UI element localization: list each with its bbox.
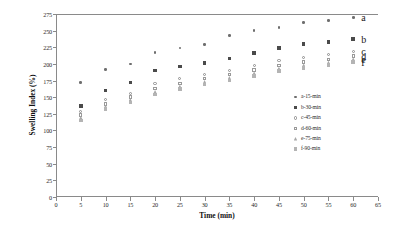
y-axis-tick-mark — [53, 97, 57, 98]
data-point-b — [300, 40, 308, 48]
data-point-f — [324, 61, 332, 69]
x-axis-tick-label: 25 — [177, 201, 183, 208]
data-point-b — [250, 49, 258, 57]
series-end-label-b: b — [361, 34, 366, 45]
legend-item-e[interactable]: e-75-min — [292, 134, 321, 144]
legend-marker-icon-c — [292, 114, 299, 121]
x-axis-tick-mark — [180, 197, 181, 201]
x-axis-tick-mark — [106, 197, 107, 201]
y-axis-tick-mark — [53, 14, 57, 15]
data-point-f — [225, 77, 233, 85]
data-point-f — [102, 105, 110, 113]
data-point-a — [275, 23, 283, 31]
x-axis-tick-label: 5 — [79, 201, 82, 208]
y-axis-tick-mark — [53, 31, 57, 32]
data-point-b — [201, 59, 209, 67]
y-axis-tick-mark — [53, 81, 57, 82]
series-end-label-f: f — [361, 56, 364, 67]
y-axis-tick-mark — [53, 64, 57, 65]
data-point-b — [324, 38, 332, 46]
x-axis-tick-mark — [353, 197, 354, 201]
data-point-f — [201, 81, 209, 89]
x-axis-tick-label: 50 — [301, 201, 307, 208]
y-axis-title: Swelling Index (%) — [28, 75, 37, 136]
data-point-b — [349, 35, 357, 43]
legend-label: e-75-min — [301, 136, 321, 142]
x-axis-tick-mark — [279, 197, 280, 201]
data-point-f — [151, 91, 159, 99]
data-point-f — [300, 64, 308, 72]
x-axis-tick-label: 20 — [152, 201, 158, 208]
x-axis-tick-label: 40 — [251, 201, 257, 208]
data-point-a — [324, 17, 332, 25]
y-axis-tick-mark — [53, 180, 57, 181]
data-point-a — [77, 79, 85, 87]
legend-item-f[interactable]: f-90-min — [292, 144, 321, 154]
data-point-f — [126, 99, 134, 107]
data-point-a — [225, 31, 233, 39]
x-axis-tick-mark — [254, 197, 255, 201]
x-axis-tick-mark — [229, 197, 230, 201]
x-axis-tick-mark — [205, 197, 206, 201]
data-point-b — [176, 63, 184, 71]
data-point-a — [126, 60, 134, 68]
legend-marker-icon-d — [292, 125, 299, 132]
x-axis-tick-label: 0 — [55, 201, 58, 208]
data-point-f — [349, 58, 357, 66]
data-point-a — [349, 13, 357, 21]
x-axis-tick-label: 30 — [202, 201, 208, 208]
x-axis-tick-mark — [304, 197, 305, 201]
legend-item-b[interactable]: b-30-min — [292, 102, 321, 112]
data-point-f — [77, 116, 85, 124]
y-axis-tick-mark — [53, 47, 57, 48]
y-axis-tick-mark — [53, 114, 57, 115]
data-point-a — [250, 27, 258, 35]
data-point-a — [201, 41, 209, 49]
data-point-b — [126, 79, 134, 87]
legend-item-d[interactable]: d-60-min — [292, 123, 321, 133]
data-point-b — [225, 55, 233, 63]
x-axis-tick-mark — [155, 197, 156, 201]
data-point-b — [151, 67, 159, 75]
data-point-f — [275, 67, 283, 75]
y-axis-tick-mark — [53, 130, 57, 131]
data-point-b — [275, 44, 283, 52]
legend-item-c[interactable]: c-45-min — [292, 113, 321, 123]
y-axis-tick-mark — [53, 147, 57, 148]
legend-marker-icon-b — [292, 104, 299, 111]
data-point-a — [151, 49, 159, 57]
x-axis-tick-mark — [378, 197, 379, 201]
x-axis-tick-label: 15 — [127, 201, 133, 208]
scatter-chart: Swelling Index (%) 025507510012515017520… — [0, 0, 420, 242]
legend-marker-icon-e — [292, 135, 299, 142]
plot-area: 0255075100125150175200225250275051015202… — [56, 14, 378, 197]
legend-label: d-60-min — [301, 126, 321, 132]
legend-label: b-30-min — [301, 105, 321, 111]
series-end-label-a: a — [361, 12, 365, 23]
x-axis-tick-label: 55 — [326, 201, 332, 208]
x-axis-tick-mark — [328, 197, 329, 201]
data-point-b — [102, 87, 110, 95]
x-axis-tick-label: 10 — [103, 201, 109, 208]
x-axis-title: Time (min) — [56, 211, 378, 220]
x-axis-tick-mark — [56, 197, 57, 201]
data-point-a — [176, 44, 184, 52]
x-axis-tick-label: 45 — [276, 201, 282, 208]
x-axis-tick-label: 60 — [350, 201, 356, 208]
legend-label: a-15-min — [301, 94, 321, 100]
x-axis-tick-label: 35 — [226, 201, 232, 208]
x-axis-tick-mark — [81, 197, 82, 201]
data-point-a — [102, 65, 110, 73]
data-point-f — [176, 85, 184, 93]
y-axis-tick-mark — [53, 164, 57, 165]
chart-legend: a-15-minb-30-minc-45-mind-60-mine-75-min… — [292, 92, 321, 154]
legend-marker-icon-f — [292, 146, 299, 153]
legend-label: c-45-min — [301, 115, 321, 121]
legend-marker-icon-a — [292, 94, 299, 101]
legend-label: f-90-min — [301, 146, 320, 152]
legend-item-a[interactable]: a-15-min — [292, 92, 321, 102]
data-point-f — [250, 72, 258, 80]
x-axis-tick-mark — [130, 197, 131, 201]
data-point-a — [300, 19, 308, 27]
x-axis-tick-label: 65 — [375, 201, 381, 208]
